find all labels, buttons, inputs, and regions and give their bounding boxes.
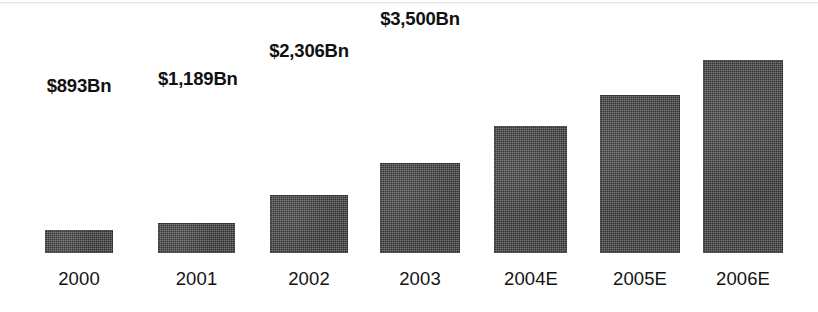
bar-2004e [494,126,567,253]
bar-2000 [45,230,113,253]
plot-area: $893Bn 2000 $1,189Bn 2001 $2,306Bn 2002 … [0,0,818,312]
bar-value-label-2003: $3,500Bn [380,8,460,30]
category-label-2002: 2002 [268,268,350,290]
bar-value-label-2000: $893Bn [45,75,113,97]
bar-2005e [600,95,680,253]
bar-group-2000: $893Bn 2000 [45,0,113,312]
category-label-2000: 2000 [45,268,113,290]
bar-2002 [270,195,348,253]
bar-group-2001: $1,189Bn 2001 [158,0,235,312]
bar-group-2003: $3,500Bn 2003 [380,0,460,312]
bar-group-2004e: $4,920Bn 2004E [492,0,570,312]
bar-2003 [380,163,460,253]
bar-value-label-2002: $2,306Bn [268,40,350,62]
bar-chart: $893Bn 2000 $1,189Bn 2001 $2,306Bn 2002 … [0,0,818,312]
category-label-2001: 2001 [158,268,235,290]
category-label-2005e: 2005E [600,268,680,290]
bar-group-2005e: $6,200Bn 2005E [600,0,680,312]
category-label-2004e: 2004E [492,268,570,290]
bar-group-2006e: $7,500Bn 2006E [703,0,783,312]
bar-group-2002: $2,306Bn 2002 [268,0,350,312]
category-label-2003: 2003 [380,268,460,290]
category-label-2006e: 2006E [703,268,783,290]
bar-value-label-2001: $1,189Bn [158,68,235,90]
bar-2001 [158,223,235,253]
bar-2006e [703,60,783,253]
